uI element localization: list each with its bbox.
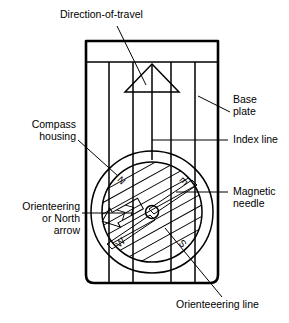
label-magnetic-needle-line2: needle [233,197,276,209]
label-orienteering-line: Orienteeering line [176,298,259,310]
label-compass-housing-line2: housing [2,130,76,142]
label-orienteering-arrow-line2: or North [2,212,80,224]
label-magnetic-needle-line1: Magnetic [233,185,276,197]
diagram-canvas: N E S W [0,0,289,323]
label-compass-housing-line1: Compass [2,118,76,130]
compass-diagram: N E S W [0,0,289,323]
label-orienteering-arrow-line1: Orienteering [2,200,80,212]
label-compass-housing: Compass housing [2,118,76,142]
label-base-plate-line1: Base [233,93,257,105]
label-orienteering-arrow: Orienteering or North arrow [2,200,80,236]
label-base-plate: Base plate [233,93,257,117]
label-base-plate-line2: plate [233,105,257,117]
label-magnetic-needle: Magnetic needle [233,185,276,209]
label-direction-of-travel: Direction-of-travel [60,8,143,20]
label-orienteering-arrow-line3: arrow [2,224,80,236]
label-index-line: Index line [233,133,278,145]
